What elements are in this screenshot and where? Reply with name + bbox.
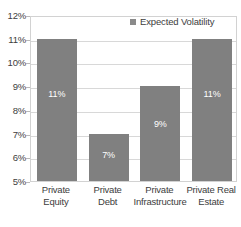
chart-legend: Expected Volatility [130, 17, 214, 27]
y-tick-label: 11% [8, 35, 26, 45]
x-category-line: Private [30, 184, 82, 196]
bar-value-label: 11% [37, 90, 77, 99]
bar-chart: 12%11%10%9%8%7%6%5% 11%7%9%11% Expected … [0, 0, 241, 227]
bar-slot: 7% [83, 17, 135, 181]
x-category-label: PrivateInfrastructure [134, 184, 186, 207]
bar-slot: 11% [31, 17, 83, 181]
bar-value-label: 11% [192, 90, 232, 99]
y-tick-label: 10% [8, 59, 26, 69]
x-category-line: Private [82, 184, 134, 196]
x-category-line: Private [134, 184, 186, 196]
bars-layer: 11%7%9%11% [31, 17, 236, 181]
legend-swatch-icon [130, 19, 136, 25]
x-category-label: Private RealEstate [185, 184, 237, 207]
x-category-line: Debt [82, 196, 134, 208]
y-tick-label: 8% [13, 106, 26, 116]
y-tick-label: 9% [13, 82, 26, 92]
x-category-label: PrivateDebt [82, 184, 134, 207]
x-category-line: Estate [185, 196, 237, 208]
legend-label-expected-volatility: Expected Volatility [140, 17, 214, 27]
bar-value-label: 9% [140, 120, 180, 129]
y-axis: 12%11%10%9%8%7%6%5% [0, 0, 29, 182]
bar[interactable]: 9% [140, 86, 180, 181]
bar-value-label: 7% [89, 151, 129, 160]
x-category-line: Private Real [185, 184, 237, 196]
y-tick-label: 7% [13, 130, 26, 140]
y-tick-label: 5% [13, 177, 26, 187]
bar[interactable]: 11% [192, 39, 232, 181]
bar[interactable]: 7% [89, 134, 129, 181]
bar-slot: 9% [135, 17, 187, 181]
bar-slot: 11% [186, 17, 238, 181]
y-tick-label: 12% [8, 11, 26, 21]
x-axis: PrivateEquityPrivateDebtPrivateInfrastru… [30, 184, 237, 224]
x-category-line: Equity [30, 196, 82, 208]
y-tickmark [26, 182, 30, 183]
bar[interactable]: 11% [37, 39, 77, 181]
y-tick-label: 6% [13, 154, 26, 164]
x-category-label: PrivateEquity [30, 184, 82, 207]
x-category-line: Infrastructure [134, 196, 186, 208]
plot-area: 11%7%9%11% [30, 16, 237, 182]
